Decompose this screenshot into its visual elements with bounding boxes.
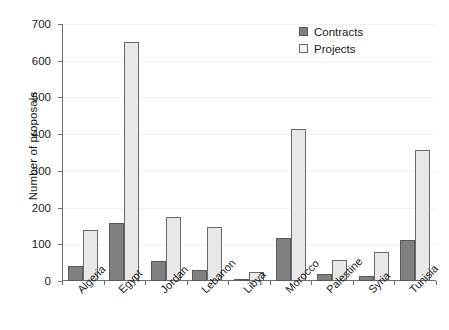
x-axis-tick	[62, 281, 63, 285]
x-axis-tick	[104, 281, 105, 285]
y-axis-tick: 500	[58, 97, 62, 98]
y-axis-line	[62, 24, 63, 281]
y-axis-tick-label: 400	[32, 128, 51, 140]
bar-jordan-contracts	[151, 261, 166, 281]
y-axis-tick-label: 100	[32, 238, 51, 250]
bar-chart: Number of proposals 01002003004005006007…	[0, 0, 449, 330]
gridline	[63, 208, 436, 209]
legend-swatch-projects-icon	[299, 44, 308, 53]
gridline	[63, 171, 436, 172]
y-axis-tick: 400	[58, 134, 62, 135]
x-axis-tick	[311, 281, 312, 285]
legend-item-contracts: Contracts	[299, 24, 363, 39]
x-axis-tick	[394, 281, 395, 285]
y-axis-tick: 700	[58, 24, 62, 25]
bar-morocco-projects	[291, 129, 306, 281]
y-axis-tick: 100	[58, 244, 62, 245]
y-axis-tick-label: 600	[32, 55, 51, 67]
y-axis-tick-label: 0	[45, 275, 51, 287]
bar-egypt-projects	[124, 42, 139, 281]
x-axis-tick	[228, 281, 229, 285]
chart-legend: Contracts Projects	[299, 24, 363, 58]
y-axis-tick: 200	[58, 208, 62, 209]
legend-swatch-contracts-icon	[299, 27, 308, 36]
bar-algeria-contracts	[68, 266, 83, 281]
gridline	[63, 134, 436, 135]
y-axis-tick-label: 300	[32, 165, 51, 177]
y-axis-tick-label: 500	[32, 91, 51, 103]
legend-item-projects: Projects	[299, 41, 363, 56]
x-axis-tick	[436, 281, 437, 285]
gridline	[63, 61, 436, 62]
x-axis-tick	[187, 281, 188, 285]
bar-morocco-contracts	[276, 238, 291, 281]
gridline	[63, 97, 436, 98]
bar-egypt-contracts	[109, 223, 124, 281]
x-axis-tick	[353, 281, 354, 285]
legend-label-contracts: Contracts	[314, 26, 363, 38]
bar-tunisia-contracts	[400, 240, 415, 281]
y-axis-tick: 300	[58, 171, 62, 172]
y-axis-tick: 600	[58, 61, 62, 62]
bar-tunisia-projects	[415, 150, 430, 281]
y-axis-tick-label: 700	[32, 18, 51, 30]
y-axis-tick-label: 200	[32, 202, 51, 214]
x-axis-tick	[145, 281, 146, 285]
x-axis-tick	[270, 281, 271, 285]
legend-label-projects: Projects	[314, 43, 356, 55]
y-axis-title: Number of proposals	[27, 36, 39, 256]
gridline	[63, 24, 436, 25]
plot-area: 0100200300400500600700	[62, 24, 436, 281]
